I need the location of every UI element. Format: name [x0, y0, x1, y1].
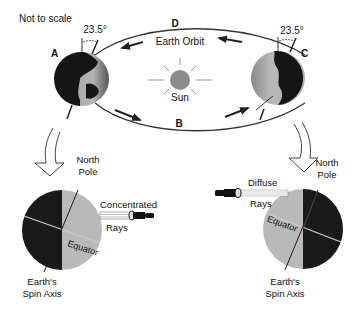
- tilt-angle-c-label: 23.5°: [280, 25, 303, 36]
- north-pole-label-left-2: Pole: [78, 166, 97, 177]
- sun-label: Sun: [171, 92, 189, 103]
- north-pole-label-left: North: [76, 154, 99, 165]
- position-a-label: A: [51, 48, 58, 59]
- flashlight-icon-right: [215, 189, 241, 198]
- concentrated-rays-label: Concentrated: [100, 199, 157, 210]
- not-to-scale-note: Not to scale: [19, 13, 72, 24]
- diffuse-rays: [240, 190, 288, 196]
- earth-detail-left: [22, 190, 102, 272]
- concentrated-rays: [100, 212, 130, 219]
- spin-axis-label-right: Earth's: [270, 276, 300, 287]
- north-pole-label-right-2: Pole: [317, 169, 336, 180]
- tilt-angle-a: [82, 38, 97, 52]
- north-pole-label-right: North: [315, 157, 338, 168]
- flashlight-icon-left: [129, 211, 154, 220]
- position-c-label: C: [301, 48, 308, 59]
- diffuse-rays-label: Diffuse: [248, 177, 277, 188]
- spin-axis-label-left-2: Spin Axis: [22, 288, 61, 299]
- position-b-label: B: [175, 118, 182, 129]
- concentrated-rays-label-2: Rays: [106, 222, 128, 233]
- spin-axis-label-left: Earth's: [27, 276, 57, 287]
- diffuse-rays-label-2: Rays: [250, 198, 272, 209]
- position-d-label: D: [171, 18, 178, 29]
- spin-axis-label-right-2: Spin Axis: [265, 288, 304, 299]
- zoom-arrow-left: [35, 128, 64, 176]
- seasons-diagram: Not to scale D B A C Earth Orbit Sun: [0, 0, 356, 315]
- orbit-label: Earth Orbit: [156, 36, 205, 47]
- zoom-arrow-right: [289, 122, 318, 172]
- earth-detail-right: [263, 189, 343, 270]
- tilt-angle-a-label: 23.5°: [83, 24, 106, 35]
- sun-icon: [148, 58, 212, 94]
